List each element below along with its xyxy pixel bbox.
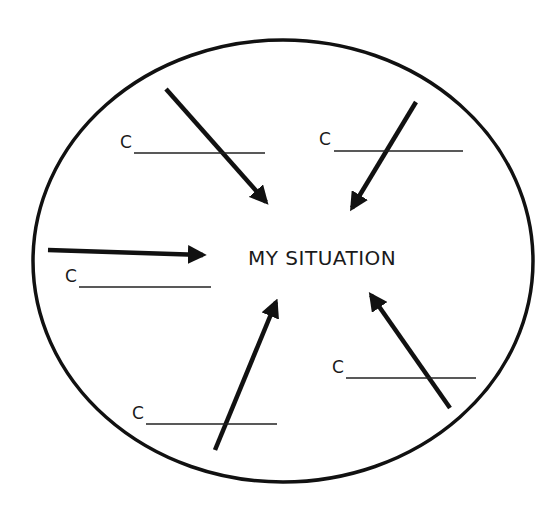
arrow-left — [48, 250, 203, 255]
arrow-upper-left — [166, 89, 266, 202]
blank-prefix-upper-right: C — [319, 131, 331, 148]
situation-diagram: C C C C C MY SITUATION — [0, 0, 555, 516]
center-label: MY SITUATION — [248, 246, 396, 270]
blank-prefix-left: C — [65, 268, 77, 285]
blank-prefix-lower-right: C — [332, 359, 344, 376]
blank-prefix-lower-left: C — [132, 405, 144, 422]
arrow-lower-right — [371, 295, 450, 408]
blank-prefix-upper-left: C — [120, 134, 132, 151]
arrow-lower-left — [215, 302, 276, 450]
arrow-upper-right — [352, 102, 416, 208]
